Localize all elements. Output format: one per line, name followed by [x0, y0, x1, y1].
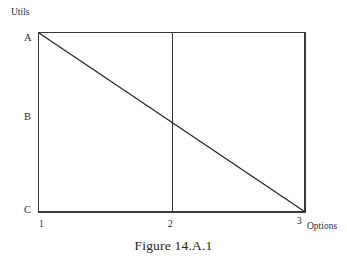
y-tick-label-c: C: [24, 205, 31, 216]
y-tick-label-b: B: [24, 112, 31, 123]
x-tick-label-2: 2: [168, 220, 173, 230]
utility-line: [39, 33, 305, 212]
x-axis-title: Options: [307, 222, 337, 232]
plot-area: [0, 0, 347, 257]
x-tick-label-3: 3: [297, 217, 302, 227]
y-tick-label-a: A: [24, 33, 32, 44]
x-tick-label-1: 1: [39, 220, 44, 230]
figure-container: Utils Options A B C 1 2 3 Figure 14.A.1: [0, 0, 347, 257]
figure-caption: Figure 14.A.1: [0, 238, 347, 254]
y-axis-title: Utils: [11, 8, 29, 18]
